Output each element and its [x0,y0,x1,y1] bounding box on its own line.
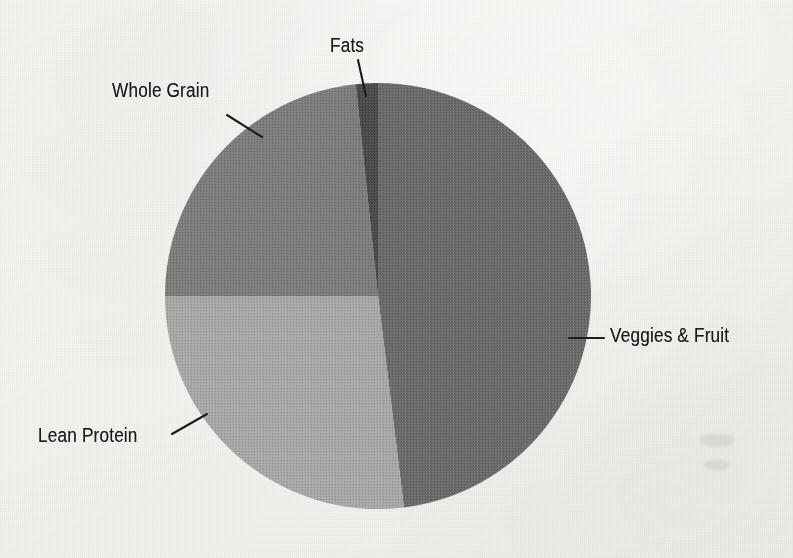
pie-label-lean-protein: Lean Protein [38,424,138,447]
halftone-texture [160,78,600,518]
pie-label-veggies-and-fruit: Veggies & Fruit [610,324,729,347]
pie-label-fats: Fats [330,34,364,57]
leader-line-lean-protein [172,414,207,434]
pie-label-whole-grain: Whole Grain [112,79,209,102]
pie-chart: Fats Whole Grain Lean Protein Veggies & … [0,0,793,558]
